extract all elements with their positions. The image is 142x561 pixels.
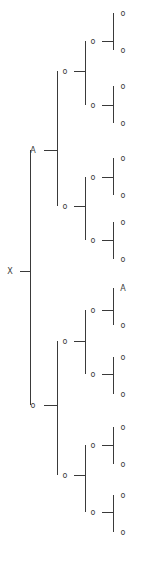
tree-node-label: o: [91, 370, 96, 379]
tree-node-label: o: [91, 173, 96, 182]
tree-node-label: o: [63, 471, 68, 480]
tree-diagram-canvas: XAoooooooooooooooooooooAooooooo: [0, 0, 142, 561]
tree-node-label: o: [91, 441, 96, 450]
tree-node-root-label: X: [7, 267, 13, 276]
tree-leaf-label: o: [121, 491, 126, 500]
tree-node-label: o: [91, 508, 96, 517]
tree-leaf-label: o: [121, 218, 126, 227]
tree-leaf-label: o: [121, 154, 126, 163]
node-label-layer: XAoooooooooooooooooooooAooooooo: [7, 9, 126, 537]
tree-leaf-label: o: [121, 423, 126, 432]
tree-node-label: o: [63, 337, 68, 346]
tree-leaf-label: o: [121, 390, 126, 399]
tree-leaf-label: o: [121, 460, 126, 469]
tree-diagram: XAoooooooooooooooooooooAooooooo: [0, 0, 142, 561]
tree-leaf-label: o: [121, 46, 126, 55]
tree-node-label: o: [91, 37, 96, 46]
tree-leaf-label: o: [121, 353, 126, 362]
tree-leaf-label: o: [121, 9, 126, 18]
tree-leaf-label: o: [121, 82, 126, 91]
tree-node-label: o: [91, 306, 96, 315]
tree-leaf-label: o: [121, 255, 126, 264]
tree-node-label: o: [63, 202, 68, 211]
bracket-layer: [20, 13, 113, 532]
tree-leaf-label: o: [121, 119, 126, 128]
tree-leaf-label: o: [121, 321, 126, 330]
tree-leaf-label: o: [121, 528, 126, 537]
tree-node-label: o: [91, 101, 96, 110]
tree-leaf-label: A: [120, 284, 126, 293]
tree-node-label: o: [91, 236, 96, 245]
tree-node-label: o: [31, 401, 36, 410]
tree-node-label: o: [63, 67, 68, 76]
tree-leaf-label: o: [121, 191, 126, 200]
tree-node-label: A: [30, 146, 36, 155]
